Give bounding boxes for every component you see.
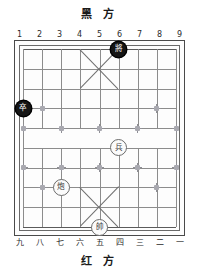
grid-line-vertical: [138, 148, 139, 227]
file-label-bottom-2: 八: [34, 238, 45, 248]
piece-glyph: 帥: [96, 223, 104, 231]
file-label-bottom-1: 九: [14, 238, 25, 248]
piece-glyph: 將: [115, 45, 123, 53]
grid-line-vertical: [157, 49, 158, 128]
grid-line-vertical: [119, 148, 120, 227]
file-label-bottom-7: 三: [134, 238, 145, 248]
piece-red-general[interactable]: 帥: [91, 219, 108, 236]
piece-red-cannon[interactable]: 炮: [53, 179, 70, 196]
file-label-bottom-6: 四: [114, 238, 125, 248]
grid-line-horizontal: [23, 128, 176, 129]
piece-glyph: 卒: [19, 105, 27, 113]
grid-line-vertical: [23, 49, 24, 227]
grid-line-vertical: [157, 148, 158, 227]
file-label-top-3: 3: [54, 30, 65, 40]
file-label-bottom-4: 六: [74, 238, 85, 248]
piece-black-pawn[interactable]: 卒: [15, 100, 32, 117]
file-label-top-4: 4: [74, 30, 85, 40]
grid-line-vertical: [42, 148, 43, 227]
file-labels-bottom: 九八七六五四三二一: [14, 238, 185, 248]
file-label-top-1: 1: [14, 30, 25, 40]
piece-glyph: 炮: [57, 184, 65, 192]
xiangqi-board[interactable]: 將卒兵炮帥: [14, 40, 185, 236]
grid-line-vertical: [100, 49, 101, 128]
file-label-top-5: 5: [94, 30, 105, 40]
file-label-bottom-3: 七: [54, 238, 65, 248]
file-label-bottom-5: 五: [94, 238, 105, 248]
file-label-top-9: 9: [174, 30, 185, 40]
file-label-top-2: 2: [34, 30, 45, 40]
grid-line-vertical: [176, 49, 177, 227]
file-label-top-7: 7: [134, 30, 145, 40]
grid-line-vertical: [42, 49, 43, 128]
grid-line-vertical: [119, 49, 120, 128]
file-label-top-8: 8: [154, 30, 165, 40]
xiangqi-board-page: 黑 方 123456789 將卒兵炮帥 九八七六五四三二一 红 方: [0, 0, 199, 274]
file-label-top-6: 6: [114, 30, 125, 40]
file-label-bottom-8: 二: [154, 238, 165, 248]
file-labels-top: 123456789: [14, 30, 185, 40]
piece-glyph: 兵: [115, 144, 123, 152]
red-side-title: 红 方: [0, 252, 199, 268]
file-label-bottom-9: 一: [174, 238, 185, 248]
black-side-title: 黑 方: [0, 5, 199, 21]
grid-line-vertical: [138, 49, 139, 128]
piece-black-general[interactable]: 將: [110, 41, 127, 58]
grid-line-vertical: [61, 49, 62, 128]
grid-line-vertical: [100, 148, 101, 227]
